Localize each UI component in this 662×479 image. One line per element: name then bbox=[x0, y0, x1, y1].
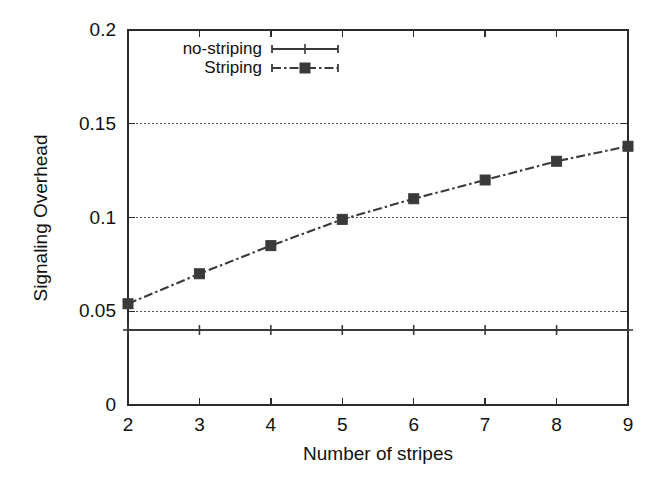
data-point bbox=[409, 325, 419, 335]
x-axis-label: Number of stripes bbox=[303, 443, 453, 465]
chart-figure: 00.050.10.150.2 23456789 Signaling Overh… bbox=[0, 0, 662, 479]
gridlines bbox=[128, 124, 628, 312]
legend-marker bbox=[300, 63, 310, 73]
x-tick-label: 9 bbox=[623, 414, 634, 436]
legend-symbols bbox=[272, 44, 338, 73]
data-point bbox=[480, 175, 490, 185]
data-point bbox=[409, 194, 419, 204]
data-point bbox=[123, 325, 133, 335]
y-tick-label: 0 bbox=[40, 394, 116, 416]
data-series-layer bbox=[123, 141, 633, 335]
data-point bbox=[266, 325, 276, 335]
data-point bbox=[194, 269, 204, 279]
y-axis-label: Signaling Overhead bbox=[30, 134, 52, 301]
y-tick-label: 0.15 bbox=[40, 113, 116, 135]
data-point bbox=[337, 325, 347, 335]
x-tick-label: 4 bbox=[266, 414, 277, 436]
x-tick-label: 7 bbox=[480, 414, 491, 436]
x-tick-label: 3 bbox=[194, 414, 205, 436]
legend-label-striping: Striping bbox=[120, 58, 262, 78]
legend-label-no-striping: no-striping bbox=[120, 39, 262, 59]
data-point bbox=[552, 156, 562, 166]
data-point bbox=[623, 325, 633, 335]
data-point bbox=[337, 214, 347, 224]
data-point bbox=[266, 241, 276, 251]
x-tick-label: 5 bbox=[337, 414, 348, 436]
x-tick-label: 2 bbox=[123, 414, 134, 436]
data-point bbox=[552, 325, 562, 335]
legend-marker bbox=[300, 44, 310, 54]
x-tick-label: 6 bbox=[408, 414, 419, 436]
y-tick-label: 0.05 bbox=[40, 300, 116, 322]
series-line-1 bbox=[128, 146, 628, 304]
data-point bbox=[480, 325, 490, 335]
data-point bbox=[623, 141, 633, 151]
x-tick-label: 8 bbox=[551, 414, 562, 436]
y-tick-label: 0.2 bbox=[40, 19, 116, 41]
data-point bbox=[123, 299, 133, 309]
data-point bbox=[194, 325, 204, 335]
